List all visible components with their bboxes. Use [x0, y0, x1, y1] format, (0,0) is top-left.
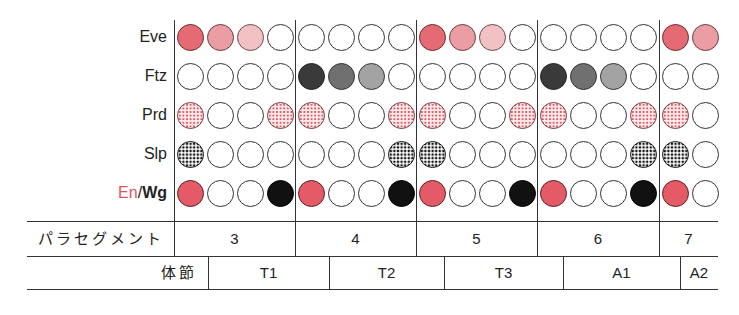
circle-eve-off: [570, 24, 597, 51]
circle-enwg-wg: [388, 180, 415, 207]
circle-slp-off: [540, 141, 567, 168]
parasegment-divider: [537, 20, 538, 256]
row-label-prd: Prd: [142, 106, 167, 124]
circle-enwg-off: [600, 180, 627, 207]
circle-eve-eve_strong: [177, 24, 204, 51]
circle-enwg-off: [207, 180, 234, 207]
circle-slp-slp: [177, 141, 204, 168]
row-label-ftz: Ftz: [145, 67, 167, 85]
label-en: En: [118, 184, 138, 201]
circle-ftz-off: [419, 63, 446, 90]
row-label-eve: Eve: [139, 28, 167, 46]
circle-slp-off: [449, 141, 476, 168]
segment-label: T2: [329, 264, 444, 282]
parasegment-divider: [416, 20, 417, 256]
circle-prd-prd: [630, 102, 657, 129]
circle-ftz-off: [479, 63, 506, 90]
segment-label: A1: [563, 264, 680, 282]
circle-ftz-off: [388, 63, 415, 90]
circle-prd-prd: [267, 102, 294, 129]
circle-prd-prd: [419, 102, 446, 129]
circle-enwg-off: [479, 180, 506, 207]
circle-eve-off: [630, 24, 657, 51]
circle-enwg-en: [662, 180, 689, 207]
circle-eve-eve_light: [237, 24, 264, 51]
segment-label: A2: [680, 264, 718, 282]
table-bottom-line: [27, 289, 718, 290]
circle-prd-off: [570, 102, 597, 129]
circle-slp-off: [509, 141, 536, 168]
circle-prd-off: [328, 102, 355, 129]
parasegment-label: 4: [295, 230, 416, 248]
circle-enwg-off: [692, 180, 719, 207]
circle-prd-prd: [662, 102, 689, 129]
circle-slp-off: [298, 141, 325, 168]
circle-prd-off: [692, 102, 719, 129]
circle-ftz-ftz_mid: [570, 63, 597, 90]
circle-ftz-off: [662, 63, 689, 90]
parasegment-divider: [659, 20, 660, 256]
label-wg: Wg: [142, 184, 167, 201]
table-mid-line: [27, 256, 718, 257]
parasegment-header: パラセグメント: [27, 230, 174, 248]
circle-slp-off: [237, 141, 264, 168]
circle-prd-off: [449, 102, 476, 129]
circle-ftz-off: [692, 63, 719, 90]
circle-ftz-ftz_mid: [328, 63, 355, 90]
circle-prd-off: [207, 102, 234, 129]
circle-ftz-ftz_light: [358, 63, 385, 90]
table-top-line: [27, 221, 718, 222]
circle-enwg-wg: [630, 180, 657, 207]
circle-enwg-en: [419, 180, 446, 207]
segment-label: T3: [444, 264, 563, 282]
circle-eve-off: [388, 24, 415, 51]
parasegment-label: 3: [174, 230, 295, 248]
circle-enwg-wg: [267, 180, 294, 207]
circle-ftz-ftz_light: [600, 63, 627, 90]
circle-eve-off: [540, 24, 567, 51]
circle-eve-eve_strong: [419, 24, 446, 51]
circle-eve-off: [328, 24, 355, 51]
circle-ftz-ftz_dark: [540, 63, 567, 90]
segment-label: T1: [208, 264, 329, 282]
circle-eve-off: [267, 24, 294, 51]
circle-ftz-off: [207, 63, 234, 90]
circle-enwg-off: [449, 180, 476, 207]
circle-slp-off: [358, 141, 385, 168]
circle-prd-prd: [388, 102, 415, 129]
circle-slp-slp: [630, 141, 657, 168]
circle-slp-off: [267, 141, 294, 168]
circle-enwg-off: [358, 180, 385, 207]
circle-prd-prd: [509, 102, 536, 129]
circle-enwg-wg: [509, 180, 536, 207]
circle-enwg-en: [177, 180, 204, 207]
circle-slp-slp: [419, 141, 446, 168]
circle-prd-off: [237, 102, 264, 129]
circle-eve-eve_mid: [449, 24, 476, 51]
circle-ftz-off: [630, 63, 657, 90]
segment-header: 体節: [27, 264, 197, 282]
parasegment-label: 5: [416, 230, 537, 248]
circle-slp-off: [692, 141, 719, 168]
circle-prd-prd: [298, 102, 325, 129]
circle-eve-off: [509, 24, 536, 51]
circle-slp-off: [600, 141, 627, 168]
circle-slp-off: [328, 141, 355, 168]
parasegment-label: 6: [537, 230, 659, 248]
circle-enwg-en: [540, 180, 567, 207]
parasegment-divider: [295, 20, 296, 256]
circle-ftz-off: [237, 63, 264, 90]
circle-ftz-off: [267, 63, 294, 90]
row-label-en-wg: En/Wg: [118, 184, 167, 202]
circle-eve-eve_strong: [662, 24, 689, 51]
circle-slp-off: [570, 141, 597, 168]
circle-enwg-off: [328, 180, 355, 207]
parasegment-label: 7: [659, 230, 718, 248]
parasegment-divider: [174, 20, 175, 256]
circle-eve-eve_mid: [207, 24, 234, 51]
circle-ftz-off: [449, 63, 476, 90]
circle-slp-off: [207, 141, 234, 168]
circle-slp-slp: [662, 141, 689, 168]
row-label-slp: Slp: [144, 145, 167, 163]
circle-ftz-off: [177, 63, 204, 90]
